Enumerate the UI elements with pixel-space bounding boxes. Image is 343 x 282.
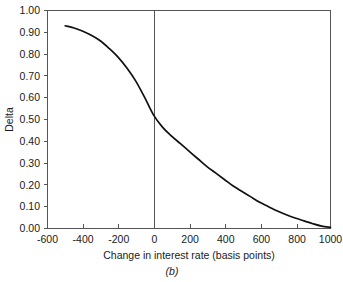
y-tick-label-0-60: 0.60 — [20, 91, 41, 103]
y-tick-label-0-40: 0.40 — [20, 135, 41, 147]
y-axis-title: Delta — [3, 107, 15, 132]
x-tick-label-400: 400 — [217, 233, 235, 245]
y-tick-label-0-80: 0.80 — [20, 48, 41, 60]
x-tick-label-minus400: -400 — [73, 233, 94, 245]
x-tick-label-200: 200 — [181, 233, 199, 245]
x-axis-tick-labels: -600 -400 -200 0 200 400 600 800 1000 — [37, 233, 342, 245]
x-axis-title: Change in interest rate (basis points) — [103, 249, 275, 261]
y-tick-label-0-20: 0.20 — [20, 179, 41, 191]
delta-vs-interest-rate-chart: 1.00 0.90 0.80 0.70 0.60 0.50 0.40 0.30 … — [0, 0, 343, 282]
x-tick-label-minus600: -600 — [37, 233, 58, 245]
x-tick-label-600: 600 — [253, 233, 271, 245]
y-tick-label-0-90: 0.90 — [20, 26, 41, 38]
y-tick-label-0-30: 0.30 — [20, 157, 41, 169]
figure-container: 1.00 0.90 0.80 0.70 0.60 0.50 0.40 0.30 … — [0, 0, 343, 282]
x-tick-label-minus200: -200 — [108, 233, 129, 245]
figure-caption: (b) — [166, 265, 179, 277]
y-tick-label-0-70: 0.70 — [20, 70, 41, 82]
x-tick-label-1000: 1000 — [319, 233, 343, 245]
x-tick-label-0: 0 — [152, 233, 158, 245]
y-tick-label-0-10: 0.10 — [20, 200, 41, 212]
y-tick-label-0-50: 0.50 — [20, 113, 41, 125]
x-tick-label-800: 800 — [288, 233, 306, 245]
y-tick-label-1-00: 1.00 — [20, 4, 41, 16]
